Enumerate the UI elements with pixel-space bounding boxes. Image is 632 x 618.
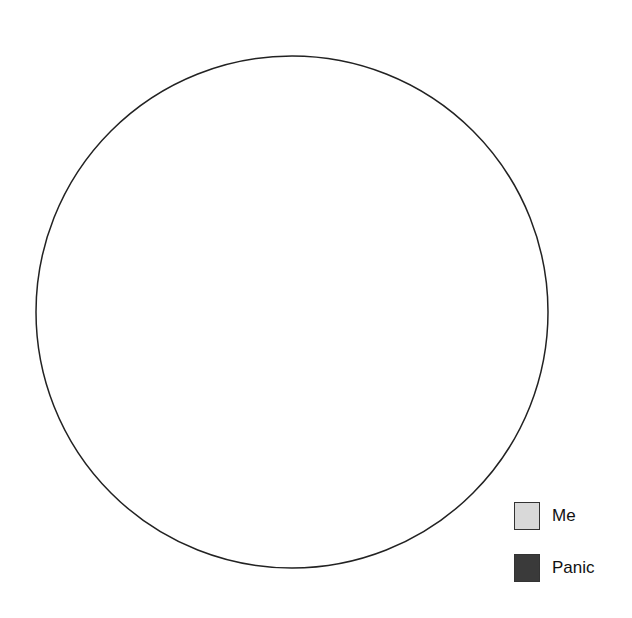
legend-swatch-me: [514, 502, 540, 530]
legend-item-me: Me: [514, 502, 595, 530]
legend-item-panic: Panic: [514, 554, 595, 582]
legend-swatch-panic: [514, 554, 540, 582]
pie-slice-me: [36, 56, 548, 568]
legend: Me Panic: [514, 502, 595, 606]
legend-label: Me: [552, 506, 576, 526]
legend-label: Panic: [552, 558, 595, 578]
